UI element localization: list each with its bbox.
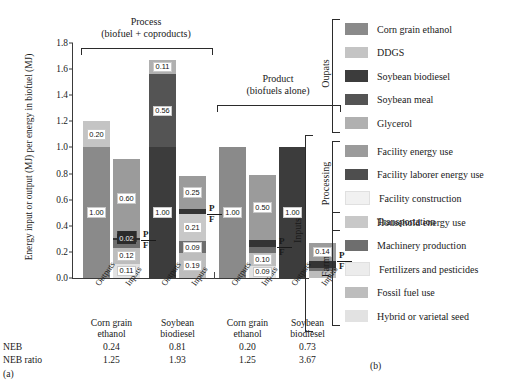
bar-segment: 0.09	[249, 266, 276, 278]
legend-inputs-bracket	[305, 135, 313, 332]
legend-item[interactable]: Fertilizers and pesticides	[345, 262, 478, 276]
legend-label: Soybean biodiesel	[377, 71, 450, 82]
y-tick-mark	[69, 278, 73, 279]
bar-segment: 1.00	[219, 147, 246, 278]
legend-item[interactable]: Soybean biodiesel	[345, 69, 450, 83]
panel-header-line2: (biofuel + coproducts)	[81, 28, 211, 40]
legend-swatch	[345, 70, 368, 82]
segment-value-label: 1.00	[153, 207, 172, 218]
segment-value-label: 0.09	[183, 242, 202, 253]
bar-segment: 0.21PF	[179, 214, 206, 241]
bar-segment	[249, 240, 276, 247]
segment-value-label: 1.00	[223, 207, 242, 218]
segment-value-label: 1.00	[283, 207, 302, 218]
bar-outputs: 1.000.20	[83, 121, 110, 278]
legend-category-processing: Processing	[320, 144, 331, 224]
legend-item[interactable]: Soybean meal	[345, 93, 433, 107]
segment-value-label: 0.11	[117, 266, 136, 277]
legend-swatch	[345, 216, 368, 228]
bar-segment	[179, 209, 206, 214]
legend-label: Machinery production	[377, 240, 466, 251]
legend-label: Facility construction	[379, 193, 462, 204]
processing-marker-label: P	[209, 203, 215, 213]
segment-value-label: 0.19	[183, 260, 202, 271]
segment-value-label: 0.12	[117, 251, 136, 262]
legend-swatch	[345, 169, 368, 181]
farm-marker-label: F	[143, 240, 149, 250]
legend-swatch	[345, 310, 368, 322]
panel-header-line1: Process	[81, 16, 211, 28]
legend-item[interactable]: Facility laborer energy use	[345, 168, 484, 182]
processing-marker-label: P	[279, 236, 285, 246]
legend-label: Household energy use	[377, 217, 466, 228]
bar-segment: 0.09	[179, 241, 206, 253]
segment-value-label: 0.60	[117, 193, 136, 204]
segment-value-label: 0.21	[183, 222, 202, 233]
neb-value: 0.81	[138, 341, 218, 352]
legend-item[interactable]: Facility energy use	[345, 144, 453, 158]
segment-value-label: 0.56	[153, 106, 172, 117]
legend-label: Hybrid or varietal seed	[377, 311, 469, 322]
y-tick-mark	[69, 225, 73, 226]
group-label: Soybeanbiodiesel	[138, 317, 218, 339]
y-axis-title: Energy input or output (MJ) per energy i…	[24, 32, 34, 282]
y-tick-mark	[69, 251, 73, 252]
legend-label: DDGS	[377, 47, 404, 58]
y-tick-mark	[69, 43, 73, 44]
legend-label: Glycerol	[377, 118, 412, 129]
legend-item[interactable]: Corn grain ethanol	[345, 22, 452, 36]
legend: Corn grain ethanolDDGSSoybean biodieselS…	[312, 0, 527, 390]
legend-label: Soybean meal	[377, 94, 433, 105]
bar-segment: 0.11	[149, 60, 176, 74]
legend-swatch	[345, 145, 368, 157]
y-tick-mark	[69, 95, 73, 96]
bar-segment: 0.20	[83, 121, 110, 147]
legend-swatch	[345, 23, 368, 35]
segment-value-label: 1.00	[87, 207, 106, 218]
bar-segment: PF	[249, 247, 276, 254]
panel-header-title: Process(biofuel + coproducts)	[81, 16, 211, 39]
neb-ratio-value: 1.93	[138, 354, 218, 365]
legend-category-farm: Farm	[320, 226, 331, 306]
legend-swatch	[345, 287, 368, 299]
legend-item[interactable]: Hybrid or varietal seed	[345, 309, 469, 323]
legend-item[interactable]: DDGS	[345, 46, 404, 60]
bar-inputs: 0.190.090.21PF0.25	[179, 166, 206, 278]
legend-label: Fossil fuel use	[377, 287, 435, 298]
legend-swatch	[345, 240, 368, 252]
legend-label: Facility laborer energy use	[377, 169, 484, 180]
processing-marker-label: P	[339, 250, 345, 260]
segment-value-label: 0.02	[117, 234, 136, 245]
figure-container: Energy input or output (MJ) per energy i…	[0, 0, 527, 390]
segment-value-label: 0.09	[253, 267, 272, 278]
bar-segment: 0.60	[113, 159, 140, 237]
legend-item[interactable]: Glycerol	[345, 116, 412, 130]
segment-value-label: 0.25	[183, 187, 202, 198]
bar-segment: 0.10	[249, 253, 276, 266]
legend-swatch	[345, 191, 370, 205]
farm-marker-label: F	[209, 214, 215, 224]
bar-inputs: 0.090.10PF0.50	[249, 175, 276, 278]
segment-value-label: 0.14	[313, 247, 332, 258]
panel-header-bracket	[81, 48, 213, 55]
farm-marker-label: F	[279, 247, 285, 257]
legend-item[interactable]: Machinery production	[345, 239, 466, 253]
bar-outputs: 1.000.560.11	[149, 60, 176, 278]
legend-item[interactable]: Fossil fuel use	[345, 286, 435, 300]
segment-value-label: 0.20	[87, 129, 106, 140]
group-label-line1: Soybean	[138, 317, 218, 328]
group-label-line2: biodiesel	[138, 328, 218, 339]
panel-separator-tick	[214, 272, 215, 279]
panel-a-label: (a)	[3, 368, 14, 379]
y-tick-mark	[69, 69, 73, 70]
legend-item[interactable]: Household energy use	[345, 215, 466, 229]
legend-swatch	[345, 94, 368, 106]
y-tick-mark	[69, 173, 73, 174]
farm-marker-label: F	[339, 261, 345, 271]
bar-segment: 0.12	[113, 248, 140, 264]
legend-swatch	[345, 47, 368, 59]
legend-item[interactable]: Facility construction	[345, 191, 462, 205]
legend-label: Corn grain ethanol	[377, 24, 452, 35]
bar-segment: 0.50	[249, 175, 276, 240]
segment-value-label: 0.50	[253, 202, 272, 213]
